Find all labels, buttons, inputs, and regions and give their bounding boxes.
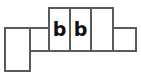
cell-b-first[interactable]: b [48, 7, 71, 52]
cell-mid-left[interactable] [29, 27, 50, 52]
cell-b-second[interactable]: b [69, 7, 92, 52]
cell-right-small[interactable] [112, 27, 137, 52]
cell-b-first-label: b [53, 20, 67, 39]
cell-b-second-label: b [74, 20, 88, 39]
diagram-canvas: b b [0, 0, 141, 80]
cell-left-tall[interactable] [4, 27, 31, 72]
cell-upper-right[interactable] [90, 7, 114, 52]
